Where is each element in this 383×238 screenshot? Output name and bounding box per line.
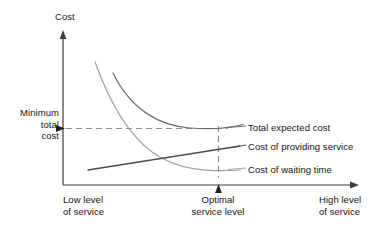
queuing-cost-tradeoff-figure: Cost Minimum total cost Total expected c… bbox=[0, 0, 383, 238]
x-axis-label-high-line-1: High level bbox=[319, 194, 361, 206]
leader-line-total-expected-cost bbox=[228, 126, 246, 128]
x-axis-label-high-level-of-service: High level of service bbox=[319, 194, 361, 217]
x-axis-label-high-line-2: of service bbox=[319, 206, 361, 218]
leader-line-cost-of-waiting-time bbox=[228, 168, 246, 170]
curve-total-expected-cost bbox=[113, 73, 243, 129]
x-axis-arrowhead bbox=[350, 182, 359, 189]
series-label-total-expected-cost: Total expected cost bbox=[248, 122, 330, 134]
x-axis-label-optimal-line-1: Optimal bbox=[168, 194, 268, 206]
y-axis-arrowhead bbox=[60, 30, 67, 39]
x-axis-label-optimal-line-2: service level bbox=[168, 206, 268, 218]
curve-cost-of-waiting-time bbox=[95, 62, 240, 171]
x-axis-label-low-line-2: of service bbox=[63, 206, 104, 218]
minimum-total-cost-annotation: Minimum total cost bbox=[0, 107, 59, 142]
x-axis-label-low-level-of-service: Low level of service bbox=[63, 194, 104, 217]
y-axis-title: Cost bbox=[55, 11, 75, 23]
minimum-total-cost-line-2: total bbox=[0, 119, 59, 131]
minimum-total-cost-line-3: cost bbox=[0, 130, 59, 142]
line-cost-of-providing-service bbox=[88, 146, 240, 170]
series-label-cost-of-providing-service: Cost of providing service bbox=[248, 141, 353, 153]
series-label-cost-of-waiting-time: Cost of waiting time bbox=[248, 164, 332, 176]
x-axis-label-low-line-1: Low level bbox=[63, 194, 104, 206]
x-axis-label-optimal-service-level: Optimal service level bbox=[168, 194, 268, 217]
minimum-total-cost-line-1: Minimum bbox=[0, 107, 59, 119]
